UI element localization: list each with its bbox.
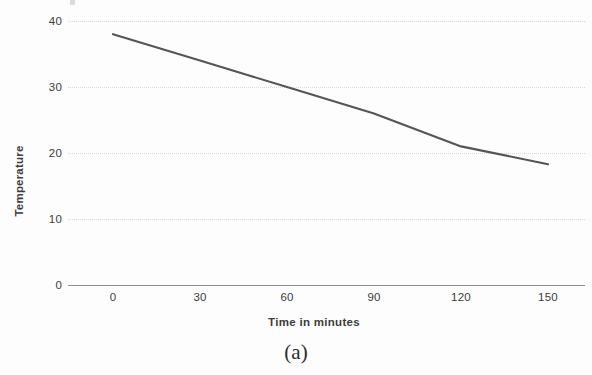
plot-area: 010203040 0306090120150 Temperature bbox=[0, 0, 592, 310]
figure-caption: (a) bbox=[0, 340, 592, 365]
series-line-temperature bbox=[0, 0, 592, 310]
figure-temperature-vs-time: 010203040 0306090120150 Temperature Time… bbox=[0, 0, 592, 375]
x-axis-title: Time in minutes bbox=[0, 316, 592, 328]
y-axis-title: Temperature bbox=[13, 126, 25, 236]
